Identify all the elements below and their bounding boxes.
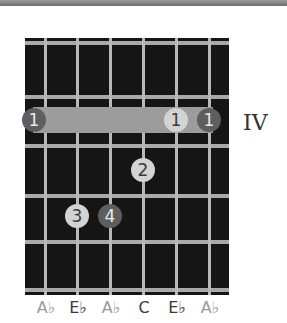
finger-dot: 3 xyxy=(65,204,89,228)
string-5 xyxy=(175,38,178,295)
string-6 xyxy=(208,38,211,295)
finger-number: 1 xyxy=(29,112,40,129)
finger-number: 4 xyxy=(105,208,116,225)
finger-dot-root: 4 xyxy=(98,204,122,228)
fret-line xyxy=(25,240,229,244)
finger-dot: 1 xyxy=(164,108,188,132)
fret-line xyxy=(25,194,229,198)
finger-number: 1 xyxy=(171,112,182,129)
string-1 xyxy=(44,38,47,295)
string-note-label: A♭ xyxy=(195,298,225,317)
fret-line xyxy=(25,144,229,148)
string-3 xyxy=(109,38,112,295)
fret-line xyxy=(25,41,229,45)
fretboard: 1 1 1 2 3 4 xyxy=(25,38,229,295)
string-note-label: E♭ xyxy=(162,298,192,317)
string-note-label: C xyxy=(129,298,159,317)
fret-line xyxy=(25,95,229,99)
finger-number: 2 xyxy=(138,162,149,179)
string-note-label: A♭ xyxy=(31,298,61,317)
header-bar xyxy=(0,0,287,6)
fret-line xyxy=(25,288,229,292)
string-2 xyxy=(76,38,79,295)
finger-dot-root: 1 xyxy=(22,108,46,132)
finger-number: 1 xyxy=(204,112,215,129)
finger-number: 3 xyxy=(72,208,83,225)
string-note-label: E♭ xyxy=(63,298,93,317)
string-note-label: A♭ xyxy=(96,298,126,317)
fret-position-label: IV xyxy=(243,110,268,135)
finger-dot-root: 1 xyxy=(197,108,221,132)
finger-dot: 2 xyxy=(131,158,155,182)
